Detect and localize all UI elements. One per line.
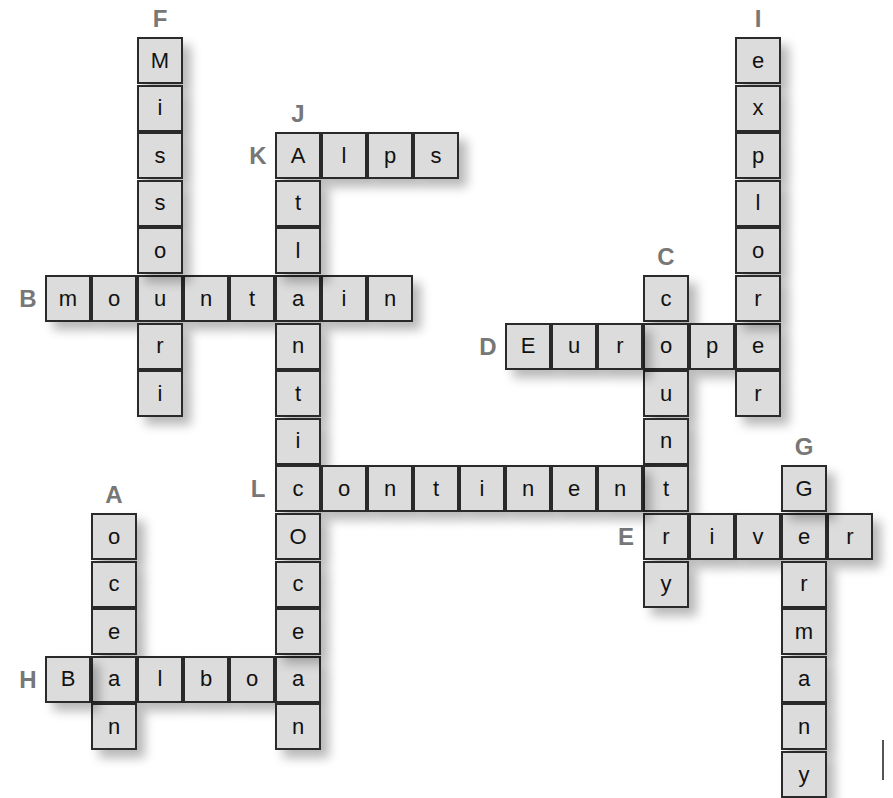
crossword-cell: o — [643, 323, 689, 370]
crossword-cell: u — [137, 275, 183, 322]
crossword-cell: i — [321, 275, 367, 322]
crossword-cell: o — [321, 465, 367, 512]
crossword-cell: t — [275, 370, 321, 417]
crossword-cell: r — [643, 513, 689, 560]
crossword-cell: l — [321, 132, 367, 179]
crossword-cell: t — [413, 465, 459, 512]
crossword-cell: o — [91, 275, 137, 322]
clue-label-k: K — [243, 142, 273, 170]
crossword-cell: r — [735, 370, 781, 417]
crossword-cell: a — [781, 656, 827, 703]
crossword-cell: p — [367, 132, 413, 179]
crossword-cell: t — [643, 465, 689, 512]
clipped-edge-element — [882, 740, 893, 780]
crossword-cell: o — [91, 513, 137, 560]
clue-label-f: F — [145, 5, 175, 33]
clue-label-d: D — [473, 333, 503, 361]
crossword-cell: n — [91, 703, 137, 750]
clue-label-e: E — [611, 523, 641, 551]
crossword-cell: G — [781, 465, 827, 512]
clue-label-a: A — [99, 481, 129, 509]
crossword-cell: e — [91, 608, 137, 655]
crossword-cell: t — [275, 180, 321, 227]
crossword-cell: n — [597, 465, 643, 512]
crossword-cell: M — [137, 37, 183, 84]
crossword-cell: r — [597, 323, 643, 370]
clue-label-g: G — [789, 433, 819, 461]
crossword-cell: a — [275, 656, 321, 703]
crossword-cell: m — [45, 275, 91, 322]
crossword-cell: n — [367, 275, 413, 322]
crossword-cell: s — [413, 132, 459, 179]
crossword-cell: i — [137, 85, 183, 132]
crossword-cell: c — [643, 275, 689, 322]
crossword-cell: o — [735, 227, 781, 274]
crossword-cell: i — [459, 465, 505, 512]
clue-label-i: I — [743, 5, 773, 33]
crossword-cell: A — [275, 132, 321, 179]
crossword-cell: l — [275, 227, 321, 274]
clue-label-j: J — [283, 100, 313, 128]
crossword-cell: E — [505, 323, 551, 370]
crossword-cell: n — [367, 465, 413, 512]
crossword-cell: i — [689, 513, 735, 560]
crossword-cell: r — [781, 561, 827, 608]
crossword-cell: x — [735, 85, 781, 132]
crossword-cell: u — [551, 323, 597, 370]
crossword-cell: n — [505, 465, 551, 512]
crossword-cell: a — [91, 656, 137, 703]
crossword-cell: n — [275, 323, 321, 370]
crossword-cell: m — [781, 608, 827, 655]
crossword-cell: y — [781, 751, 827, 798]
crossword-cell: o — [229, 656, 275, 703]
crossword-cell: n — [643, 418, 689, 465]
crossword-cell: n — [275, 703, 321, 750]
crossword-cell: e — [275, 608, 321, 655]
crossword-cell: r — [827, 513, 873, 560]
crossword-cell: e — [735, 37, 781, 84]
clue-label-b: B — [13, 285, 43, 313]
crossword-cell: O — [275, 513, 321, 560]
crossword-cell: c — [275, 465, 321, 512]
crossword-cell: y — [643, 561, 689, 608]
crossword-cell: s — [137, 132, 183, 179]
crossword-cell: l — [735, 180, 781, 227]
crossword-cell: a — [275, 275, 321, 322]
clue-label-h: H — [13, 666, 43, 694]
crossword-cell: n — [781, 703, 827, 750]
crossword-cell: e — [781, 513, 827, 560]
crossword-cell: r — [137, 323, 183, 370]
crossword-cell: r — [735, 275, 781, 322]
crossword-cell: b — [183, 656, 229, 703]
crossword-cell: t — [229, 275, 275, 322]
crossword-cell: B — [45, 656, 91, 703]
crossword-cell: e — [735, 323, 781, 370]
crossword-cell: s — [137, 180, 183, 227]
crossword-cell: c — [91, 561, 137, 608]
crossword-cell: v — [735, 513, 781, 560]
crossword-cell: i — [137, 370, 183, 417]
crossword-cell: u — [643, 370, 689, 417]
crossword-cell: c — [275, 561, 321, 608]
crossword-cell: e — [551, 465, 597, 512]
clue-label-c: C — [651, 243, 681, 271]
crossword-cell: l — [137, 656, 183, 703]
crossword-cell: p — [735, 132, 781, 179]
crossword-cell: n — [183, 275, 229, 322]
crossword-cell: i — [275, 418, 321, 465]
crossword-cell: o — [137, 227, 183, 274]
clue-label-l: L — [243, 475, 273, 503]
crossword-cell: p — [689, 323, 735, 370]
